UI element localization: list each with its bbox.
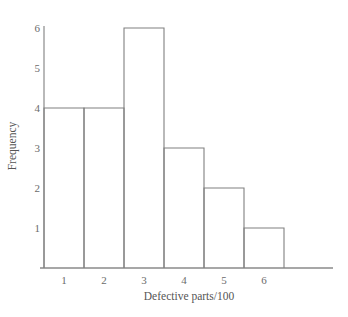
bar-4 — [164, 148, 204, 268]
bar-1 — [44, 108, 84, 268]
x-tick-label-1: 1 — [44, 275, 84, 286]
bar-6 — [244, 228, 284, 268]
y-tick-label-6: 6 — [26, 23, 40, 34]
histogram-chart: 1 2 3 4 5 6 1 2 3 4 5 6 Defective parts/… — [0, 0, 348, 317]
y-tick-label-5: 5 — [26, 63, 40, 74]
y-tick-label-1: 1 — [26, 223, 40, 234]
bar-3 — [124, 28, 164, 268]
y-tick-label-2: 2 — [26, 183, 40, 194]
y-tick-label-3: 3 — [26, 143, 40, 154]
bar-2 — [84, 108, 124, 268]
x-tick-label-4: 4 — [164, 275, 204, 286]
x-tick-label-5: 5 — [204, 275, 244, 286]
y-tick-label-4: 4 — [26, 103, 40, 114]
bar-5 — [204, 188, 244, 268]
y-axis-title: Frequency — [6, 116, 18, 176]
x-axis-title: Defective parts/100 — [44, 290, 334, 302]
bars-group — [44, 28, 284, 268]
x-tick-label-2: 2 — [84, 275, 124, 286]
chart-plot-area — [0, 0, 348, 317]
x-tick-label-6: 6 — [244, 275, 284, 286]
x-tick-label-3: 3 — [124, 275, 164, 286]
